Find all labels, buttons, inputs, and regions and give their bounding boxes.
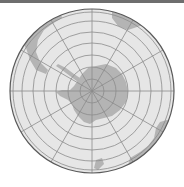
polar-map	[0, 0, 184, 187]
